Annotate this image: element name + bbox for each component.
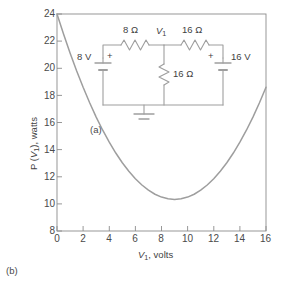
y-axis-title-sub: 1 [32,148,41,152]
panel-b-label: (b) [6,265,18,276]
resistor-16ohm-top-label: 16 Ω [182,24,202,35]
x-axis-title-sub: 1 [144,253,148,262]
source-8v-polarity: + [107,50,113,61]
x-axis-title-rest: , volts [148,249,173,260]
plot-frame [57,14,266,231]
x-tick-label-10: 10 [180,233,195,244]
y-tick-label-12: 12 [37,171,55,182]
x-tick-label-12: 12 [206,233,221,244]
x-tick-label-14: 14 [232,233,247,244]
node-v1-sub: 1 [162,29,166,38]
y-axis-title: P (V1), watts [28,117,39,170]
y-tick-label-22: 22 [37,35,55,46]
x-tick-label-16: 16 [258,233,273,244]
y-axis-title-rest: ), watts [28,117,39,148]
resistor-16ohm-middle-label: 16 Ω [173,68,193,79]
y-axis-title-pre: P ( [28,158,39,170]
y-tick-label-10: 10 [37,198,55,209]
y-tick-label-18: 18 [37,90,55,101]
source-8v-label: 8 V [77,51,91,62]
x-tick-label-4: 4 [103,233,115,244]
x-tick-label-8: 8 [155,233,167,244]
y-axis-title-var: V [28,152,39,158]
x-tick-label-2: 2 [77,233,89,244]
source-16v-polarity: + [208,50,214,61]
y-tick-label-24: 24 [37,8,55,19]
y-tick-label-20: 20 [37,62,55,73]
node-v1-label: V1 [156,25,166,36]
x-tick-label-0: 0 [51,233,63,244]
resistor-8ohm-label: 8 Ω [123,24,138,35]
x-axis-title: V1, volts [138,249,173,260]
figure-container: 8 10 12 14 16 18 20 22 24 0 2 4 6 8 10 1… [0,0,284,292]
source-16v-label: 16 V [231,51,251,62]
y-tick-label-16: 16 [37,117,55,128]
panel-a-label: (a) [90,124,102,135]
x-tick-label-6: 6 [129,233,141,244]
